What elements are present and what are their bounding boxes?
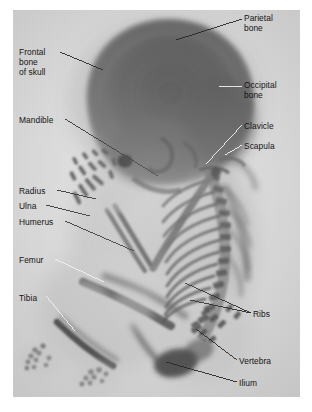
- label-tibia: Tibia: [19, 293, 37, 303]
- label-scapula: Scapula: [244, 141, 275, 151]
- label-parietal-bone: Parietal bone: [244, 13, 273, 33]
- anatomy-figure: Parietal boneFrontal bone of skullOccipi…: [0, 0, 312, 412]
- radiograph-panel: [13, 10, 300, 397]
- label-occipital-bone: Occipital bone: [244, 80, 277, 100]
- label-ulna: Ulna: [19, 201, 36, 211]
- label-radius: Radius: [19, 186, 45, 196]
- label-ribs: Ribs: [253, 309, 270, 319]
- label-vertebra: Vertebra: [239, 356, 271, 366]
- fetal-skeleton-radiograph: [13, 10, 300, 397]
- label-clavicle: Clavicle: [244, 121, 274, 131]
- label-mandible: Mandible: [19, 115, 53, 125]
- label-frontal-bone-of-skull: Frontal bone of skull: [19, 47, 45, 78]
- label-femur: Femur: [19, 255, 43, 265]
- label-ilium: Ilium: [239, 378, 257, 388]
- label-humerus: Humerus: [19, 217, 53, 227]
